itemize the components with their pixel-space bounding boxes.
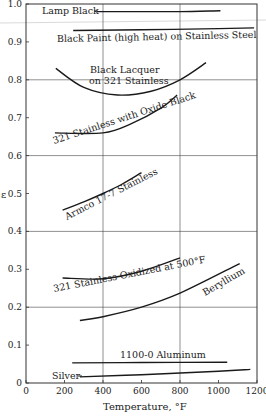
y-tick-label: 0.7 xyxy=(8,113,23,123)
label-black-paint: Black Paint (high heat) on Stainless Ste… xyxy=(57,29,257,44)
x-axis-title: Temperature, °F xyxy=(103,401,187,412)
x-tick-label: 800 xyxy=(171,386,188,396)
label-silver: Silver xyxy=(52,370,81,381)
label-black-lacquer-line2: on 321 Stainless xyxy=(89,75,169,86)
label-armco: Armco 17-7 Stainless xyxy=(62,165,159,222)
y-tick-label: 0.1 xyxy=(8,340,22,350)
y-tick-label: 0.9 xyxy=(8,37,23,47)
y-tick-label: 0 xyxy=(16,378,22,388)
label-aluminum: 1100-0 Aluminum xyxy=(120,349,206,360)
label-lamp-black: Lamp Black xyxy=(42,5,99,16)
label-oxide-black: 321 Stainless with Oxide Black xyxy=(51,89,197,146)
y-tick-label: 0.3 xyxy=(8,264,23,274)
y-tick-label: 0.6 xyxy=(8,151,23,161)
y-tick-label: 0.2 xyxy=(8,302,22,312)
y-tick-label: 0.5 xyxy=(8,189,23,199)
y-tick-label: 1.0 xyxy=(8,0,23,9)
x-tick-label: 400 xyxy=(94,386,111,396)
grid-lines xyxy=(26,4,257,383)
scan-artifact-line xyxy=(0,20,266,23)
x-tick-label: 600 xyxy=(133,386,150,396)
plot-frame xyxy=(26,4,257,383)
label-oxidized-500: 321 Stainless Oxidized at 500°F xyxy=(52,254,206,294)
x-axis-ticks: 020040060080010001200 xyxy=(23,380,266,396)
x-tick-label: 1000 xyxy=(207,386,230,396)
curve-silver xyxy=(80,369,250,377)
x-tick-label: 200 xyxy=(56,386,73,396)
curve-1100-0-aluminum xyxy=(72,362,227,363)
x-tick-label: 1200 xyxy=(246,386,266,396)
label-beryllium: Beryllium xyxy=(201,265,247,298)
curve-lamp-black xyxy=(97,11,220,12)
y-axis-title: ε xyxy=(1,189,6,200)
emissivity-chart: 020040060080010001200 00.10.20.30.40.50.… xyxy=(0,0,266,417)
x-tick-label: 0 xyxy=(23,386,29,396)
label-black-lacquer-line1: Black Lacquer xyxy=(90,64,160,75)
y-tick-label: 0.8 xyxy=(8,75,23,85)
y-tick-label: 0.4 xyxy=(8,226,23,236)
